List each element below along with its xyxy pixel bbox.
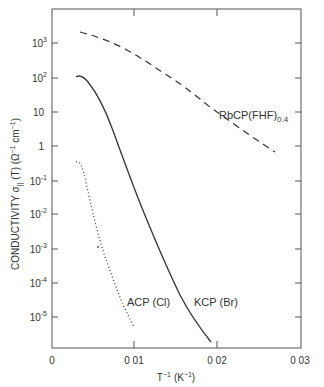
y-tick-labels: 103 102 10 1 10-1 10-2 10-3 10-4 10-5 bbox=[30, 36, 47, 323]
stray-data-dot bbox=[97, 246, 99, 248]
acp-curve bbox=[76, 162, 134, 327]
kcp-label: KCP (Br) bbox=[194, 296, 238, 308]
y-tick-1e-3: 10-3 bbox=[30, 242, 47, 255]
y-tick-10: 10 bbox=[33, 107, 45, 118]
x-tick-labels: 0 0 01 0 02 0 03 bbox=[49, 355, 310, 366]
acp-label: ACP (Cl) bbox=[127, 296, 170, 308]
y-tick-1e-2: 10-2 bbox=[30, 207, 47, 220]
y-tick-1e-5: 10-5 bbox=[30, 310, 47, 323]
rbcp-curve bbox=[80, 32, 275, 152]
y-axis-title: CONDUCTIVITY σ|| (T) (Ω−1 cm−1) bbox=[9, 118, 24, 270]
x-axis-title: T−1(K−1) bbox=[157, 371, 195, 383]
plot-frame bbox=[52, 9, 301, 348]
x-tick-0: 0 bbox=[49, 355, 55, 366]
x-tick-002: 0 02 bbox=[207, 355, 227, 366]
x-tick-001: 0 01 bbox=[124, 355, 144, 366]
y-tick-1: 1 bbox=[38, 141, 44, 152]
y-tick-1e-1: 10-1 bbox=[30, 174, 47, 187]
y-tick-1e2: 102 bbox=[32, 71, 47, 84]
y-tick-1e3: 103 bbox=[32, 36, 47, 49]
y-tick-1e-4: 10-4 bbox=[30, 276, 47, 289]
rbcp-label: RbCP(FHF)0.4 bbox=[219, 109, 289, 124]
x-tick-003: 0 03 bbox=[290, 355, 310, 366]
conductivity-chart: 103 102 10 1 10-1 10-2 10-3 10-4 10-5 0 … bbox=[0, 0, 324, 387]
